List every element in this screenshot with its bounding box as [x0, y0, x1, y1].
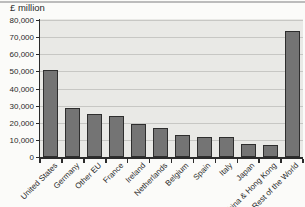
y-tick-label: 30,000 — [0, 102, 34, 111]
bar-italy — [219, 137, 234, 157]
y-tick-label: 50,000 — [0, 67, 34, 76]
y-tick-label: 10,000 — [0, 136, 34, 145]
bar-united-states — [43, 70, 58, 157]
y-tick-label: 70,000 — [0, 33, 34, 42]
x-tick — [193, 159, 195, 163]
x-tick — [39, 159, 41, 163]
x-tick — [237, 159, 239, 163]
x-tick — [215, 159, 217, 163]
x-tick — [258, 159, 260, 163]
bar-ireland — [131, 124, 146, 157]
bar-netherlands — [153, 128, 168, 157]
bar-france — [109, 116, 124, 157]
x-tick — [61, 159, 63, 163]
y-gridline — [40, 89, 303, 90]
x-tick — [171, 159, 173, 163]
x-tick — [302, 159, 304, 163]
y-gridline — [40, 106, 303, 107]
bar-belgium — [175, 135, 190, 157]
bar-china-hong-kong — [263, 145, 278, 157]
y-axis-title: £ million — [10, 2, 45, 13]
y-tick-label: 0 — [0, 153, 34, 162]
bar-rest-of-the-world — [285, 31, 300, 157]
bar-germany — [65, 108, 80, 157]
y-gridline — [40, 71, 303, 72]
x-tick — [149, 159, 151, 163]
y-gridline — [40, 20, 303, 21]
bar-spain — [197, 137, 212, 157]
y-tick-label: 60,000 — [0, 50, 34, 59]
y-gridline — [40, 37, 303, 38]
y-axis-line — [39, 19, 41, 159]
y-tick-label: 80,000 — [0, 16, 34, 25]
y-tick-label: 40,000 — [0, 85, 34, 94]
x-tick — [83, 159, 85, 163]
y-tick-label: 20,000 — [0, 119, 34, 128]
bar-other-eu — [87, 114, 102, 157]
bar-japan — [241, 144, 256, 157]
x-tick — [280, 159, 282, 163]
top-rule — [0, 1, 305, 3]
x-tick — [105, 159, 107, 163]
y-gridline — [40, 54, 303, 55]
x-tick — [127, 159, 129, 163]
bar-chart: £ million 010,00020,00030,00040,00050,00… — [0, 0, 305, 207]
